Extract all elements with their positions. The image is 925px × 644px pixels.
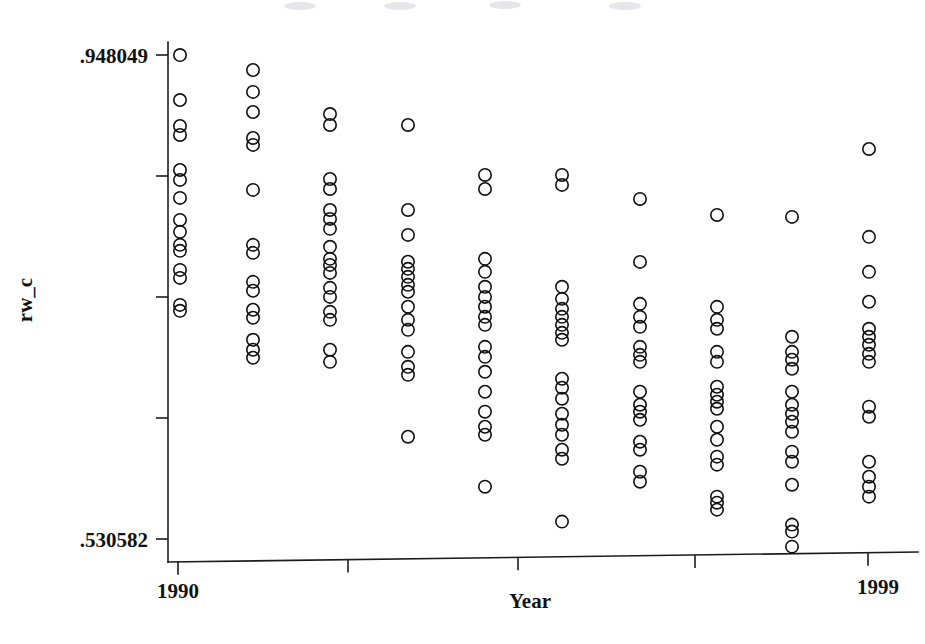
data-point (479, 480, 491, 492)
data-point (479, 253, 491, 265)
y-tick-label-top: .948049 (80, 44, 148, 68)
data-point (786, 363, 798, 375)
data-point (479, 319, 491, 331)
x-tick-label-last: 1999 (857, 575, 899, 599)
cropped-title (284, 1, 641, 10)
title-remnant (489, 1, 521, 9)
series-1997 (711, 209, 723, 516)
data-point (402, 229, 414, 241)
series-1993 (402, 119, 414, 443)
data-point (247, 64, 259, 76)
data-point (402, 204, 414, 216)
data-point (174, 226, 186, 238)
data-point (711, 403, 723, 415)
data-point (174, 214, 186, 226)
tick-marks (156, 55, 868, 575)
data-point (247, 312, 259, 324)
series-1992 (324, 108, 336, 368)
data-point (247, 86, 259, 98)
x-axis-title: Year (509, 589, 551, 613)
data-point (324, 267, 336, 279)
data-point (556, 453, 568, 465)
data-point (324, 356, 336, 368)
data-point (711, 301, 723, 313)
data-point (634, 386, 646, 398)
data-point (863, 266, 875, 278)
data-point (324, 314, 336, 326)
data-point (711, 458, 723, 470)
data-point (247, 247, 259, 259)
data-point (711, 434, 723, 446)
y-tick-label-bottom: .530582 (80, 528, 148, 552)
data-point (247, 285, 259, 297)
data-point (324, 241, 336, 253)
data-point (402, 431, 414, 443)
title-remnant (284, 2, 316, 10)
data-point (402, 369, 414, 381)
data-point (479, 429, 491, 441)
series-1990 (174, 49, 186, 317)
y-axis-title: rw_c (13, 278, 37, 322)
data-point (174, 192, 186, 204)
data-point (786, 331, 798, 343)
data-point (479, 386, 491, 398)
data-point (479, 405, 491, 417)
data-point (402, 346, 414, 358)
series-1999 (863, 143, 875, 503)
data-point (479, 266, 491, 278)
series-1994 (479, 169, 491, 493)
title-remnant (384, 2, 416, 10)
data-point (786, 540, 798, 552)
data-point (174, 94, 186, 106)
data-point (634, 298, 646, 310)
data-point (324, 344, 336, 356)
data-point (711, 421, 723, 433)
data-point (247, 106, 259, 118)
series-1996 (634, 193, 646, 488)
data-point (786, 211, 798, 223)
scatter-plot-figure: .948049.53058219901999Yearrw_c (0, 0, 925, 644)
data-point (247, 184, 259, 196)
plot-canvas: .948049.53058219901999Yearrw_c (0, 0, 925, 644)
axes (168, 42, 918, 562)
title-remnant (609, 2, 641, 10)
data-point (711, 323, 723, 335)
data-point (402, 301, 414, 313)
data-point (634, 193, 646, 205)
data-point (863, 456, 875, 468)
data-point (479, 366, 491, 378)
data-point (863, 231, 875, 243)
data-point (247, 352, 259, 364)
x-axis-line (168, 552, 918, 562)
data-point (863, 356, 875, 368)
x-tick-label-first: 1990 (157, 579, 199, 603)
data-points (174, 49, 875, 553)
data-point (174, 129, 186, 141)
data-point (402, 256, 414, 268)
data-point (634, 256, 646, 268)
data-point (324, 291, 336, 303)
series-1995 (556, 169, 568, 528)
series-1998 (786, 211, 798, 553)
data-point (479, 169, 491, 181)
axis-labels: .948049.53058219901999Yearrw_c (13, 44, 899, 613)
data-point (863, 143, 875, 155)
data-point (402, 119, 414, 131)
series-1991 (247, 64, 259, 364)
data-point (634, 444, 646, 456)
data-point (556, 515, 568, 527)
data-point (174, 49, 186, 61)
data-point (634, 414, 646, 426)
data-point (786, 479, 798, 491)
data-point (863, 296, 875, 308)
data-point (786, 386, 798, 398)
data-point (479, 183, 491, 195)
data-point (174, 272, 186, 284)
data-point (711, 209, 723, 221)
data-point (556, 281, 568, 293)
